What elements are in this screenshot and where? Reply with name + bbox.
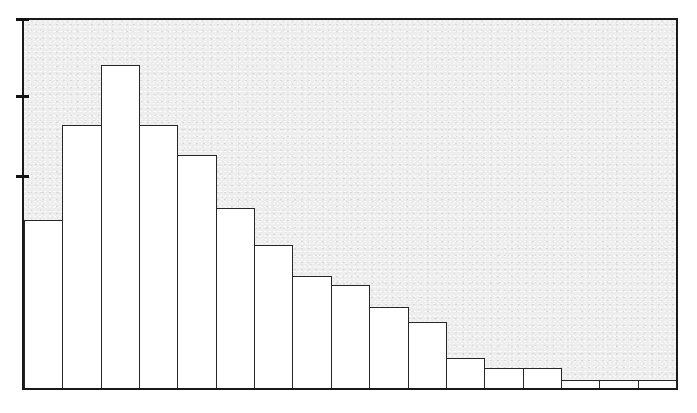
histogram-bar xyxy=(216,208,255,388)
histogram-bar xyxy=(139,125,178,388)
histogram-bar xyxy=(599,380,638,388)
histogram-bar xyxy=(24,220,63,388)
histogram-bar xyxy=(177,155,216,388)
histogram-bar xyxy=(408,322,447,388)
histogram-figure xyxy=(0,0,697,413)
histogram-bar xyxy=(331,285,370,388)
histogram-bar xyxy=(523,368,562,388)
y-axis-tick xyxy=(16,18,29,21)
histogram-bar xyxy=(62,125,101,388)
histogram-bar xyxy=(254,245,293,388)
histogram-bar xyxy=(101,65,140,388)
histogram-bar xyxy=(484,368,523,388)
histogram-bar xyxy=(292,276,331,388)
y-axis-tick xyxy=(16,95,29,98)
histogram-bar xyxy=(638,380,677,388)
histogram-bar xyxy=(446,358,485,388)
histogram-bar xyxy=(561,380,600,388)
y-axis-tick xyxy=(16,175,29,178)
histogram-bar xyxy=(369,307,408,388)
